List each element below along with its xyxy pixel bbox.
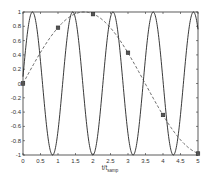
y-tick-label: -0.2 — [11, 95, 22, 101]
chart: 00.511.522.533.544.55 -1-0.8-0.6-0.4-0.2… — [0, 0, 209, 181]
y-tick-label: 0.8 — [13, 23, 22, 29]
y-tick-label: -0.6 — [11, 123, 22, 129]
x-tick-label: 2 — [91, 158, 95, 164]
y-tick-label: 1 — [18, 9, 22, 15]
y-tick-label: -1 — [16, 152, 22, 158]
x-tick-label: 5 — [196, 158, 200, 164]
sample-marker — [21, 82, 25, 86]
x-tick-label: 0.5 — [36, 158, 45, 164]
x-tick-label: 1.5 — [71, 158, 80, 164]
y-tick-label: 0.6 — [13, 38, 22, 44]
x-tick-label: 0 — [21, 158, 25, 164]
x-tick-label: 3.5 — [141, 158, 150, 164]
x-tick-label: 4 — [161, 158, 165, 164]
x-axis-label: t/tsamp — [102, 164, 119, 173]
x-tick-label: 2.5 — [106, 158, 115, 164]
y-tick-label: 0.2 — [13, 66, 22, 72]
sample-marker — [161, 113, 165, 117]
sample-marker — [56, 26, 60, 30]
x-tick-label: 1 — [56, 158, 60, 164]
plot-area — [23, 12, 198, 155]
y-tick-label: -0.8 — [11, 138, 22, 144]
y-tick-label: -0.4 — [11, 109, 22, 115]
x-tick-label: 3 — [126, 158, 130, 164]
sample-marker — [91, 12, 95, 16]
sample-marker — [126, 51, 130, 55]
sample-marker — [196, 152, 200, 156]
y-tick-label: 0.4 — [13, 52, 22, 58]
x-tick-label: 4.5 — [176, 158, 185, 164]
